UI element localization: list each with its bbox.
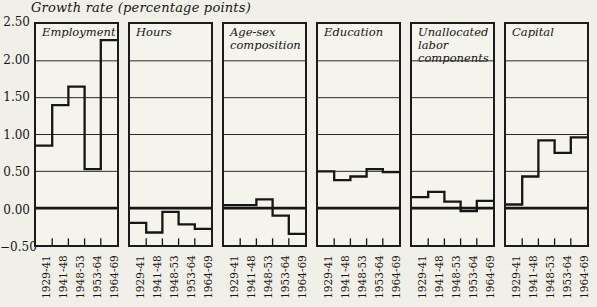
x-axis-label: 1964-69 [202, 254, 214, 300]
chart-panel: Hours1929-411941-481948-531953-641964-69 [128, 22, 213, 247]
y-axis-label: 1.50 [0, 90, 30, 104]
x-axis-label: 1929-41 [134, 254, 146, 300]
data-step-line [130, 212, 211, 233]
x-axis-label: 1953-64 [91, 254, 103, 300]
y-axis-label: 2.50 [0, 15, 30, 29]
x-axis-label: 1964-69 [578, 254, 590, 300]
x-axis-label: 1953-64 [467, 254, 479, 300]
panel-plot-area: Unallocated labor components [410, 22, 495, 247]
x-axis-label: 1953-64 [373, 254, 385, 300]
panels-row: Employment1929-411941-481948-531953-6419… [34, 22, 589, 247]
y-axis-label: 2.00 [0, 53, 30, 67]
chart-title: Growth rate (percentage points) [31, 0, 251, 15]
x-axis-label: 1929-41 [416, 254, 428, 300]
step-line-chart [130, 24, 211, 245]
x-axis-label: 1941-48 [151, 254, 163, 300]
y-axis-label: 0.50 [0, 165, 30, 179]
x-axis-label: 1948-53 [356, 254, 368, 300]
panel-title: Age-sex composition [230, 26, 302, 52]
x-axis-label: 1964-69 [390, 254, 402, 300]
panel-plot-area: Hours [128, 22, 213, 247]
panel-plot-area: Capital [504, 22, 589, 247]
panel-plot-area: Age-sex composition [222, 22, 307, 247]
data-step-line [36, 40, 117, 169]
panel-title: Capital [512, 26, 554, 39]
x-axis-label: 1953-64 [561, 254, 573, 300]
x-axis-label: 1941-48 [527, 254, 539, 300]
y-axis: 2.502.001.501.000.500.00−0.50 [0, 0, 31, 307]
panel-title: Hours [136, 26, 172, 39]
y-axis-label: 0.00 [0, 203, 30, 217]
panel-title: Education [324, 26, 383, 39]
step-line-chart [318, 24, 399, 245]
x-axis-labels: 1929-411941-481948-531953-641964-69 [222, 247, 307, 305]
chart-panel: Capital1929-411941-481948-531953-641964-… [504, 22, 589, 247]
x-axis-label: 1948-53 [544, 254, 556, 300]
x-axis-label: 1941-48 [433, 254, 445, 300]
x-axis-label: 1929-41 [40, 254, 52, 300]
x-axis-label: 1929-41 [510, 254, 522, 300]
step-line-chart [36, 24, 117, 245]
chart-panel: Employment1929-411941-481948-531953-6419… [34, 22, 119, 247]
x-axis-labels: 1929-411941-481948-531953-641964-69 [34, 247, 119, 305]
x-axis-label: 1941-48 [57, 254, 69, 300]
figure-growth-sources: Growth rate (percentage points) 2.502.00… [0, 0, 597, 307]
panel-plot-area: Employment [34, 22, 119, 247]
chart-panel: Education1929-411941-481948-531953-64196… [316, 22, 401, 247]
x-axis-label: 1929-41 [228, 254, 240, 300]
x-axis-labels: 1929-411941-481948-531953-641964-69 [316, 247, 401, 305]
data-step-line [224, 199, 305, 234]
x-axis-label: 1964-69 [296, 254, 308, 300]
panel-title: Employment [42, 26, 114, 39]
x-axis-labels: 1929-411941-481948-531953-641964-69 [504, 247, 589, 305]
step-line-chart [506, 24, 587, 245]
x-axis-label: 1948-53 [74, 254, 86, 300]
x-axis-label: 1929-41 [322, 254, 334, 300]
chart-panel: Age-sex composition1929-411941-481948-53… [222, 22, 307, 247]
panel-title: Unallocated labor components [418, 26, 490, 65]
x-axis-label: 1953-64 [279, 254, 291, 300]
x-axis-label: 1964-69 [108, 254, 120, 300]
data-step-line [318, 169, 399, 180]
x-axis-label: 1948-53 [168, 254, 180, 300]
step-line-chart [224, 24, 305, 245]
x-axis-label: 1941-48 [245, 254, 257, 300]
panel-plot-area: Education [316, 22, 401, 247]
x-axis-labels: 1929-411941-481948-531953-641964-69 [128, 247, 213, 305]
x-axis-label: 1948-53 [262, 254, 274, 300]
chart-panel: Unallocated labor components1929-411941-… [410, 22, 495, 247]
x-axis-label: 1953-64 [185, 254, 197, 300]
x-axis-label: 1941-48 [339, 254, 351, 300]
x-axis-label: 1964-69 [484, 254, 496, 300]
y-axis-label: 1.00 [0, 128, 30, 142]
x-axis-label: 1948-53 [450, 254, 462, 300]
y-axis-label: −0.50 [0, 240, 30, 254]
x-axis-labels: 1929-411941-481948-531953-641964-69 [410, 247, 495, 305]
